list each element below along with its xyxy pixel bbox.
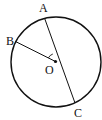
label-a: A — [39, 1, 48, 15]
radius-ob — [16, 42, 56, 62]
label-o: O — [45, 63, 54, 77]
label-b: B — [6, 34, 14, 48]
diameter-ac — [45, 18, 76, 103]
label-c: C — [74, 106, 82, 120]
circle-diagram: A B C O — [0, 0, 102, 120]
angle-aob-arc — [48, 54, 52, 58]
center-dot — [54, 60, 57, 63]
